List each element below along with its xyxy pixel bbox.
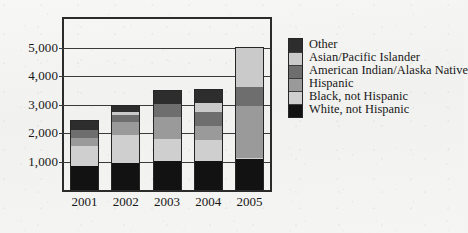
legend-swatch bbox=[289, 91, 302, 104]
bar-segment bbox=[235, 87, 264, 106]
bar-segment bbox=[194, 103, 223, 112]
bar-segment bbox=[153, 161, 182, 190]
legend-swatch bbox=[289, 39, 302, 52]
y-tick-label: 5,000 bbox=[28, 41, 58, 54]
legend-label-column: OtherAsian/Pacific IslanderAmerican Indi… bbox=[309, 38, 468, 116]
bar-segment bbox=[111, 115, 140, 122]
legend-swatch bbox=[289, 52, 302, 65]
bar-segment bbox=[235, 159, 264, 190]
stacked-bar bbox=[111, 105, 140, 190]
legend-swatch-column bbox=[288, 38, 303, 118]
bar-segment bbox=[194, 126, 223, 140]
bar-segment bbox=[194, 140, 223, 161]
bar-segment bbox=[70, 166, 99, 190]
legend-swatch bbox=[289, 78, 302, 91]
y-axis-labels: 1,0002,0003,0004,0005,000 bbox=[0, 0, 58, 233]
x-tick-label: 2001 bbox=[63, 194, 107, 209]
stacked-bar bbox=[70, 120, 99, 190]
legend-label: White, not Hispanic bbox=[309, 103, 468, 116]
bar-segment bbox=[111, 105, 140, 113]
bar-segment bbox=[153, 90, 182, 104]
bars-layer bbox=[62, 17, 272, 192]
stacked-bar bbox=[194, 89, 223, 190]
x-tick-label: 2005 bbox=[227, 194, 271, 209]
bar-segment bbox=[194, 89, 223, 103]
bar-segment bbox=[153, 139, 182, 162]
bar-segment bbox=[70, 138, 99, 146]
bar-segment bbox=[111, 122, 140, 136]
bar-segment bbox=[235, 48, 264, 87]
y-tick-label: 2,000 bbox=[28, 126, 58, 139]
bar-segment bbox=[153, 104, 182, 117]
bar-segment bbox=[235, 106, 264, 158]
bar-segment bbox=[194, 112, 223, 127]
bar-segment bbox=[153, 117, 182, 139]
stacked-bar bbox=[153, 90, 182, 190]
legend-swatch bbox=[289, 65, 302, 78]
bar-segment bbox=[70, 130, 99, 138]
x-tick-label: 2004 bbox=[186, 194, 230, 209]
bar-segment bbox=[70, 146, 99, 167]
bar-segment bbox=[194, 161, 223, 190]
y-tick-label: 1,000 bbox=[28, 155, 58, 168]
bar-segment bbox=[111, 163, 140, 190]
bar-segment bbox=[111, 135, 140, 162]
x-tick-label: 2002 bbox=[104, 194, 148, 209]
legend-swatch bbox=[289, 104, 302, 117]
y-tick-label: 4,000 bbox=[28, 69, 58, 82]
x-axis-labels: 20012002200320042005 bbox=[62, 194, 272, 216]
y-tick-label: 3,000 bbox=[28, 98, 58, 111]
bar-segment bbox=[70, 120, 99, 130]
stacked-bar bbox=[235, 47, 264, 190]
x-tick-label: 2003 bbox=[145, 194, 189, 209]
chart-legend: OtherAsian/Pacific IslanderAmerican Indi… bbox=[288, 38, 468, 118]
